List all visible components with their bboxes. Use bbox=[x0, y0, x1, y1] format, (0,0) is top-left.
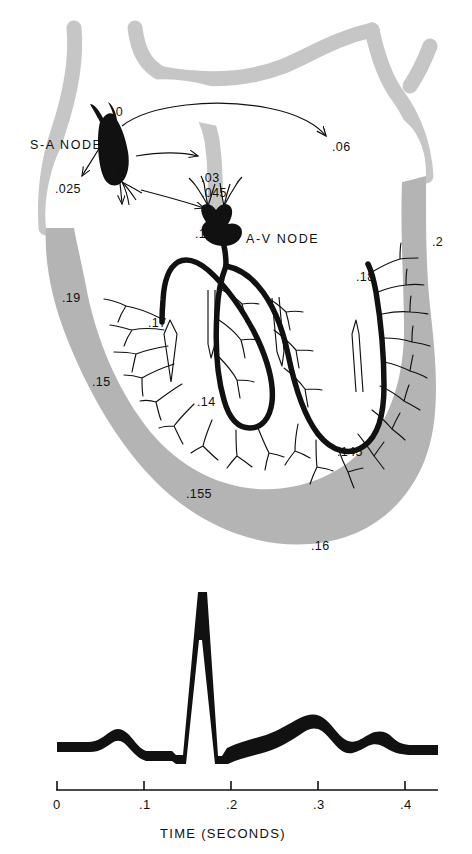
ecg-tick-label-3: .3 bbox=[313, 798, 325, 811]
ecg-tick-label-2: .2 bbox=[226, 798, 238, 811]
cardiac-conduction-figure: S-A NODE A-V NODE .0 .025 .03 .045 .06 .… bbox=[0, 0, 472, 854]
ecg-panel bbox=[56, 592, 438, 790]
timing-label-155: .155 bbox=[186, 488, 212, 501]
timing-label-03: .03 bbox=[201, 172, 220, 185]
timing-label-045: .045 bbox=[201, 187, 227, 200]
av-node-label: A-V NODE bbox=[246, 233, 319, 246]
ecg-tick-label-4: .4 bbox=[400, 798, 412, 811]
timing-label-145: .145 bbox=[337, 446, 363, 459]
timing-label-0: .0 bbox=[112, 106, 123, 119]
ecg-tick-label-0: 0 bbox=[53, 798, 61, 811]
timing-label-16: .16 bbox=[311, 540, 330, 553]
ecg-tick-label-1: .1 bbox=[139, 798, 151, 811]
timing-label-025: .025 bbox=[55, 183, 81, 196]
timing-label-17: .17 bbox=[148, 317, 167, 330]
timing-label-15: .15 bbox=[92, 376, 111, 389]
timing-label-2: .2 bbox=[432, 236, 443, 249]
timing-label-12: .12 bbox=[195, 228, 214, 241]
ecg-axis-caption: TIME (SECONDS) bbox=[160, 827, 286, 840]
timing-label-18: .18 bbox=[356, 271, 375, 284]
timing-label-06: .06 bbox=[332, 141, 351, 154]
figure-artwork bbox=[0, 0, 472, 854]
timing-label-14: .14 bbox=[197, 396, 216, 409]
sa-node-label: S-A NODE bbox=[30, 139, 103, 152]
timing-label-19: .19 bbox=[62, 292, 81, 305]
ecg-trace bbox=[57, 592, 438, 764]
ecg-axis-ticks bbox=[57, 781, 405, 790]
